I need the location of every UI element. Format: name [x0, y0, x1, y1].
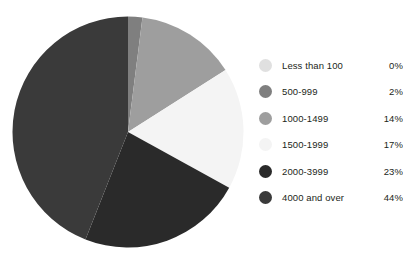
legend-item-500-999[interactable]: 500-999 2% [259, 79, 403, 106]
legend-swatch-icon [259, 191, 272, 204]
pie-svg [12, 16, 244, 248]
legend-item-label: Less than 100 [282, 60, 343, 71]
legend-item-4000-and-over[interactable]: 4000 and over 44% [259, 185, 403, 212]
legend-swatch-icon [259, 85, 272, 98]
legend-item-label: 4000 and over [282, 192, 344, 203]
legend-item-2000-3999[interactable]: 2000-3999 23% [259, 158, 403, 185]
legend-item-value: 23% [384, 166, 403, 177]
legend-swatch-icon [259, 165, 272, 178]
legend-item-label: 1500-1999 [282, 139, 328, 150]
legend-item-value: 14% [384, 113, 403, 124]
legend-item-1000-1499[interactable]: 1000-1499 14% [259, 105, 403, 132]
pie-chart-figure: Less than 100 0% 500-999 2% 1000-1499 14… [0, 0, 403, 270]
legend-item-value: 0% [389, 60, 403, 71]
legend-item-less-than-100[interactable]: Less than 100 0% [259, 52, 403, 79]
legend-item-1500-1999[interactable]: 1500-1999 17% [259, 132, 403, 159]
legend-swatch-icon [259, 138, 272, 151]
legend-item-value: 2% [389, 86, 403, 97]
legend-swatch-icon [259, 59, 272, 72]
legend-item-label: 2000-3999 [282, 166, 328, 177]
legend-swatch-icon [259, 112, 272, 125]
legend-item-label: 500-999 [282, 86, 318, 97]
chart-legend: Less than 100 0% 500-999 2% 1000-1499 14… [259, 52, 403, 211]
legend-item-value: 17% [384, 139, 403, 150]
legend-item-label: 1000-1499 [282, 113, 328, 124]
legend-item-value: 44% [384, 192, 403, 203]
pie-slice-group [12, 17, 243, 248]
pie-chart-graphic [12, 16, 244, 248]
